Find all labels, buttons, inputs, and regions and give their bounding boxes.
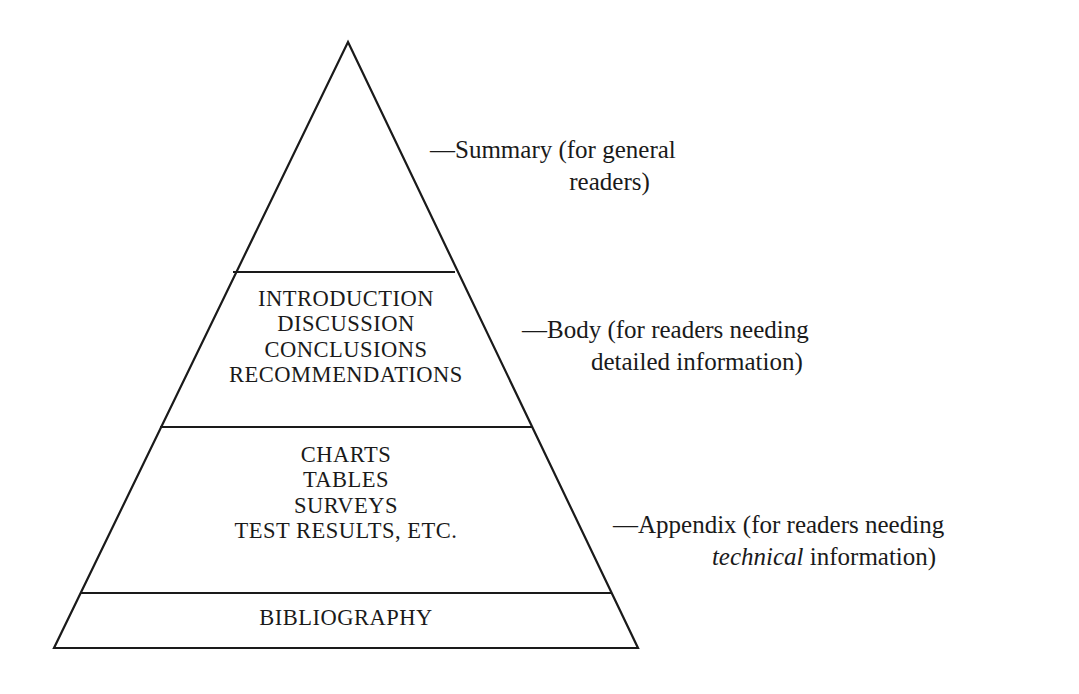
callout-summary-line1: Summary (for general [455,136,676,163]
callout-body-line1: Body (for readers needing [547,316,809,343]
tier-body-labels: INTRODUCTION DISCUSSION CONCLUSIONS RECO… [106,286,586,388]
tier-bibliography-line: BIBLIOGRAPHY [106,605,586,631]
pyramid-diagram: INTRODUCTION DISCUSSION CONCLUSIONS RECO… [0,0,1079,694]
callout-body: —Body (for readers needing detailed info… [522,314,809,378]
callout-body-dash: — [522,316,547,343]
tier-appendix-line: TABLES [106,468,586,494]
tier-body-line: CONCLUSIONS [106,337,586,363]
tier-body-line: RECOMMENDATIONS [106,363,586,389]
callout-appendix-line1: Appendix (for readers needing [638,511,944,538]
callout-appendix-line2: technical information) [613,541,944,573]
tier-appendix-line: TEST RESULTS, ETC. [106,519,586,545]
callout-summary: —Summary (for general readers) [430,134,676,198]
tier-body-line: DISCUSSION [106,312,586,338]
callout-appendix-line2-rest: information) [804,543,937,570]
callout-summary-dash: — [430,136,455,163]
tier-appendix-labels: CHARTS TABLES SURVEYS TEST RESULTS, ETC. [106,442,586,544]
callout-appendix-dash: — [613,511,638,538]
callout-appendix-italic-word: technical [712,543,804,570]
callout-body-line2: detailed information) [522,346,809,378]
tier-bibliography-labels: BIBLIOGRAPHY [106,605,586,631]
callout-appendix: —Appendix (for readers needing technical… [613,509,944,573]
tier-appendix-line: CHARTS [106,442,586,468]
callout-summary-line2: readers) [430,166,676,198]
tier-appendix-line: SURVEYS [106,493,586,519]
tier-body-line: INTRODUCTION [106,286,586,312]
